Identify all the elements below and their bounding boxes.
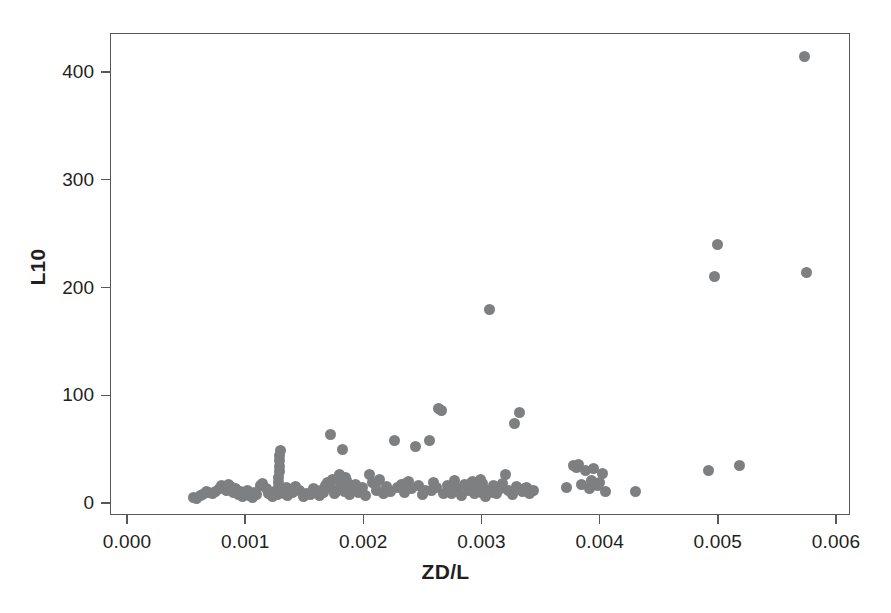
y-axis-tick-label: 100 bbox=[34, 384, 94, 406]
y-axis-label: L10 bbox=[26, 241, 50, 293]
x-axis-label: ZD/L bbox=[0, 560, 891, 584]
x-axis-tick bbox=[599, 515, 600, 524]
x-axis-tick-label: 0.005 bbox=[694, 531, 743, 553]
y-axis-tick-label: 0 bbox=[34, 492, 94, 514]
scatter-plot-figure: 0.0000.0010.0020.0030.0040.0050.00601002… bbox=[0, 0, 891, 613]
x-axis-tick bbox=[126, 515, 127, 524]
y-axis-tick-label: 400 bbox=[34, 61, 94, 83]
x-axis-tick bbox=[835, 515, 836, 524]
x-axis-tick-label: 0.006 bbox=[812, 531, 861, 553]
y-axis-tick bbox=[101, 71, 110, 72]
x-axis-tick-label: 0.001 bbox=[221, 531, 270, 553]
y-axis-tick bbox=[101, 502, 110, 503]
x-axis-tick-label: 0.003 bbox=[457, 531, 506, 553]
x-axis-tick-label: 0.002 bbox=[339, 531, 388, 553]
x-axis-tick-label: 0.000 bbox=[103, 531, 152, 553]
x-axis-tick bbox=[363, 515, 364, 524]
plot-frame bbox=[110, 33, 850, 515]
x-axis-tick-label: 0.004 bbox=[575, 531, 624, 553]
y-axis-tick bbox=[101, 287, 110, 288]
x-axis-tick bbox=[481, 515, 482, 524]
y-axis-tick bbox=[101, 395, 110, 396]
x-axis-tick bbox=[244, 515, 245, 524]
y-axis-tick bbox=[101, 179, 110, 180]
y-axis-tick-label: 300 bbox=[34, 169, 94, 191]
x-axis-tick bbox=[717, 515, 718, 524]
